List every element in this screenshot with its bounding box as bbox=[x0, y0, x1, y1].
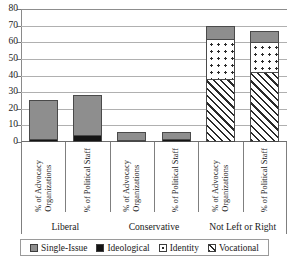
legend-label-identity: Identity bbox=[170, 243, 199, 253]
y-axis-label-20: 20 bbox=[0, 104, 18, 114]
bars-layer bbox=[21, 9, 287, 142]
y-axis-label-70: 70 bbox=[0, 21, 18, 31]
legend-item-vocational: Vocational bbox=[208, 243, 259, 253]
chart-legend: Single-Issue Ideological Identity Vocati… bbox=[20, 239, 269, 256]
y-axis-label-40: 40 bbox=[0, 71, 18, 81]
y-axis-label-0: 0 bbox=[0, 137, 18, 147]
legend-label-vocational: Vocational bbox=[219, 243, 259, 253]
y-axis-label-80: 80 bbox=[0, 4, 18, 14]
category-label-4: % of Political Staff bbox=[171, 147, 181, 212]
bar-segment-vocational bbox=[250, 72, 279, 142]
stacked-bar-chart: 01020304050607080 % of Advocacy Organiza… bbox=[0, 0, 289, 262]
axis-inner-divider-2 bbox=[243, 142, 244, 212]
y-axis-label-60: 60 bbox=[0, 37, 18, 47]
legend-swatch-ideological bbox=[96, 244, 104, 252]
group-label-liberal: Liberal bbox=[21, 221, 110, 232]
category-label-1: % of Advocacy Organizations bbox=[34, 159, 53, 212]
category-axis: % of Advocacy Organizations% of Politica… bbox=[21, 142, 287, 234]
axis-inner-divider-1 bbox=[154, 142, 155, 212]
category-label-2: % of Political Staff bbox=[83, 147, 93, 212]
bar-segment-single-issue bbox=[162, 132, 191, 139]
axis-divider-2 bbox=[198, 142, 199, 212]
bar-3 bbox=[117, 132, 146, 142]
y-axis-label-30: 30 bbox=[0, 87, 18, 97]
legend-item-ideological: Ideological bbox=[96, 243, 149, 253]
bar-segment-identity bbox=[250, 42, 279, 72]
bar-6 bbox=[250, 31, 279, 142]
category-label-6: % of Political Staff bbox=[260, 147, 270, 212]
category-tick-5: % of Advocacy Organizations bbox=[198, 142, 242, 212]
y-axis-label-50: 50 bbox=[0, 54, 18, 64]
plot-area bbox=[21, 9, 287, 142]
bar-segment-identity bbox=[206, 39, 235, 79]
bar-segment-vocational bbox=[206, 79, 235, 142]
axis-divider-1 bbox=[110, 142, 111, 212]
bar-1 bbox=[29, 100, 58, 142]
group-label-conservative: Conservative bbox=[110, 221, 199, 232]
category-tick-3: % of Advocacy Organizations bbox=[110, 142, 154, 212]
category-tick-1: % of Advocacy Organizations bbox=[21, 142, 65, 212]
bar-segment-single-issue bbox=[250, 31, 279, 43]
bar-segment-single-issue bbox=[206, 26, 235, 39]
bar-segment-single-issue bbox=[117, 132, 146, 140]
bar-segment-single-issue bbox=[73, 95, 102, 135]
category-label-3: % of Advocacy Organizations bbox=[122, 159, 141, 212]
bar-5 bbox=[206, 26, 235, 142]
group-label-not-left-or-right: Not Left or Right bbox=[198, 221, 287, 232]
category-label-5: % of Advocacy Organizations bbox=[211, 159, 230, 212]
legend-swatch-identity bbox=[159, 244, 167, 252]
bar-segment-single-issue bbox=[29, 100, 58, 138]
bar-segment-ideological bbox=[73, 135, 102, 142]
legend-label-single-issue: Single-Issue bbox=[41, 243, 87, 253]
bar-4 bbox=[162, 132, 191, 142]
legend-swatch-single-issue bbox=[30, 244, 38, 252]
category-tick-4: % of Political Staff bbox=[154, 142, 198, 212]
legend-label-ideological: Ideological bbox=[107, 243, 149, 253]
legend-swatch-vocational bbox=[208, 244, 216, 252]
y-axis-label-10: 10 bbox=[0, 120, 18, 130]
axis-inner-divider-0 bbox=[65, 142, 66, 212]
legend-item-single-issue: Single-Issue bbox=[30, 243, 87, 253]
legend-item-identity: Identity bbox=[159, 243, 199, 253]
category-tick-6: % of Political Staff bbox=[243, 142, 287, 212]
bar-2 bbox=[73, 95, 102, 142]
category-tick-2: % of Political Staff bbox=[65, 142, 109, 212]
clipped-title-fragment bbox=[0, 0, 289, 7]
